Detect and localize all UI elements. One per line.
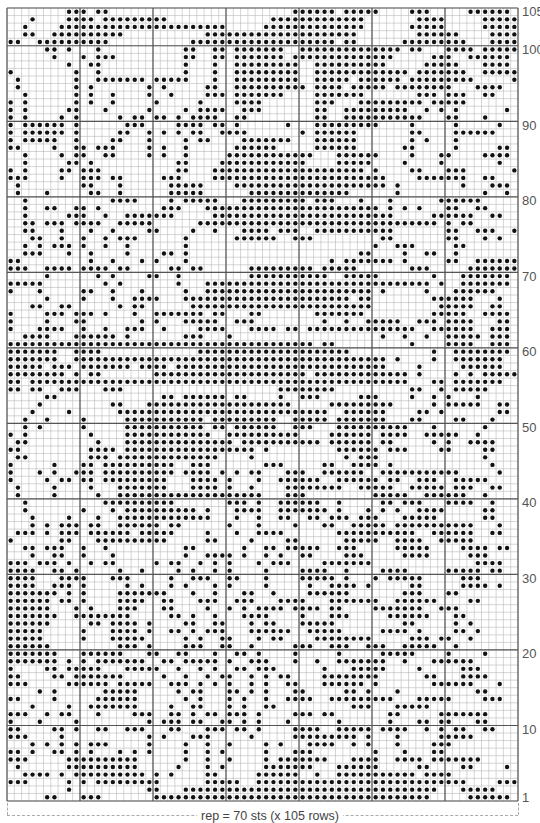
stitch-dot	[220, 25, 224, 29]
stitch-dot	[337, 206, 341, 210]
stitch-dot	[60, 32, 64, 36]
stitch-dot	[81, 636, 85, 640]
stitch-dot	[198, 221, 202, 225]
stitch-dot	[257, 365, 261, 369]
stitch-dot	[300, 470, 304, 474]
stitch-dot	[74, 380, 78, 384]
stitch-dot	[476, 289, 480, 293]
stitch-dot	[403, 591, 407, 595]
stitch-dot	[111, 561, 115, 565]
stitch-dot	[23, 568, 27, 572]
stitch-dot	[249, 402, 253, 406]
stitch-dot	[454, 297, 458, 301]
stitch-dot	[403, 523, 407, 527]
stitch-dot	[439, 17, 443, 21]
stitch-dot	[388, 727, 392, 731]
stitch-dot	[16, 349, 20, 353]
stitch-dot	[30, 621, 34, 625]
stitch-dot	[235, 289, 239, 293]
stitch-dot	[198, 297, 202, 301]
stitch-dot	[505, 47, 509, 51]
stitch-dot	[432, 274, 436, 278]
stitch-dot	[206, 319, 210, 323]
stitch-dot	[344, 130, 348, 134]
stitch-dot	[184, 395, 188, 399]
stitch-dot	[169, 266, 173, 270]
stitch-dot	[315, 198, 319, 202]
stitch-dot	[103, 380, 107, 384]
stitch-dot	[125, 448, 129, 452]
stitch-dot	[315, 500, 319, 504]
stitch-dot	[118, 621, 122, 625]
stitch-dot	[330, 312, 334, 316]
stitch-dot	[257, 440, 261, 444]
stitch-dot	[60, 365, 64, 369]
stitch-dot	[147, 493, 151, 497]
stitch-dot	[468, 667, 472, 671]
stitch-dot	[490, 448, 494, 452]
stitch-dot	[468, 765, 472, 769]
stitch-dot	[344, 25, 348, 29]
stitch-dot	[213, 478, 217, 482]
stitch-dot	[227, 787, 231, 791]
stitch-dot	[381, 425, 385, 429]
stitch-dot	[227, 674, 231, 678]
stitch-dot	[498, 266, 502, 270]
stitch-dot	[315, 289, 319, 293]
stitch-dot	[344, 357, 348, 361]
stitch-dot	[315, 130, 319, 134]
stitch-dot	[249, 138, 253, 142]
stitch-dot	[154, 531, 158, 535]
stitch-dot	[227, 500, 231, 504]
stitch-dot	[293, 365, 297, 369]
stitch-dot	[133, 380, 137, 384]
stitch-dot	[490, 289, 494, 293]
stitch-dot	[213, 32, 217, 36]
stitch-dot	[125, 531, 129, 535]
stitch-dot	[184, 433, 188, 437]
stitch-dot	[162, 448, 166, 452]
stitch-dot	[249, 485, 253, 489]
stitch-dot	[184, 153, 188, 157]
stitch-dot	[81, 765, 85, 769]
stitch-dot	[308, 606, 312, 610]
stitch-dot	[410, 221, 414, 225]
stitch-dot	[300, 387, 304, 391]
stitch-dot	[249, 735, 253, 739]
stitch-dot	[111, 93, 115, 97]
stitch-dot	[454, 470, 458, 474]
stitch-dot	[213, 780, 217, 784]
stitch-dot	[206, 463, 210, 467]
stitch-dot	[300, 349, 304, 353]
stitch-dot	[176, 516, 180, 520]
stitch-dot	[483, 281, 487, 285]
stitch-dot	[264, 47, 268, 51]
stitch-dot	[352, 433, 356, 437]
stitch-dot	[198, 433, 202, 437]
stitch-dot	[352, 538, 356, 542]
stitch-dot	[220, 720, 224, 724]
stitch-dot	[388, 652, 392, 656]
stitch-dot	[125, 644, 129, 648]
stitch-dot	[505, 334, 509, 338]
stitch-dot	[366, 757, 370, 761]
stitch-dot	[235, 206, 239, 210]
stitch-dot	[67, 765, 71, 769]
stitch-dot	[468, 380, 472, 384]
stitch-dot	[366, 251, 370, 255]
stitch-dot	[395, 780, 399, 784]
stitch-dot	[505, 266, 509, 270]
stitch-dot	[111, 463, 115, 467]
stitch-dot	[366, 214, 370, 218]
stitch-dot	[111, 297, 115, 301]
stitch-dot	[30, 568, 34, 572]
stitch-dot	[176, 689, 180, 693]
stitch-dot	[490, 93, 494, 97]
stitch-dot	[439, 304, 443, 308]
stitch-dot	[498, 568, 502, 572]
stitch-dot	[30, 410, 34, 414]
stitch-dot	[118, 614, 122, 618]
stitch-dot	[454, 244, 458, 248]
stitch-dot	[410, 531, 414, 535]
stitch-dot	[67, 561, 71, 565]
